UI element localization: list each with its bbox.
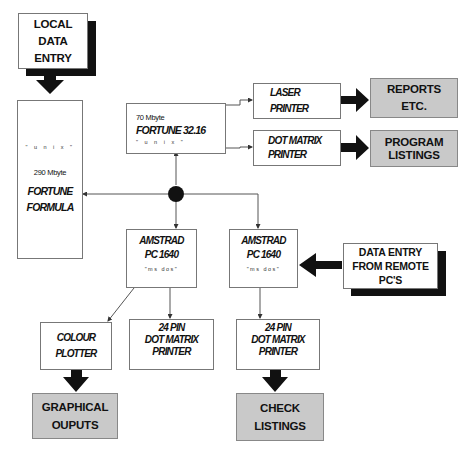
- program-listings-line2: LISTINGS: [388, 149, 439, 162]
- pin24-2-line3: PRINTER: [259, 346, 297, 358]
- colour-plotter-box: COLOUR PLOTTER: [40, 322, 112, 370]
- amstrad-pc1640-1-box: AMSTRAD PC 1640 "ms dos": [126, 229, 197, 288]
- local-data-entry-box: LOCAL DATA ENTRY: [18, 13, 88, 69]
- reports-line2: ETC.: [401, 98, 426, 115]
- 24pin-printer-2-box: 24 PIN DOT MATRIX PRINTER: [236, 319, 320, 370]
- amstrad2-line2: PC 1640: [247, 248, 280, 262]
- fortune-3216-name: FORTUNE 32.16: [136, 122, 205, 139]
- graphical-outputs-box: GRAPHICAL OUPUTS: [32, 393, 118, 439]
- fortune-3216-size: 70 Mbyte: [136, 113, 164, 122]
- amstrad1-line2: PC 1640: [145, 248, 178, 262]
- colour-plotter-line1: COLOUR: [57, 330, 96, 346]
- laser-printer-line2: PRINTER: [270, 101, 308, 117]
- check-listings-line1: CHECK: [260, 399, 300, 417]
- fortune-3216-box: 70 Mbyte FORTUNE 32.16 " u n i x ": [126, 103, 226, 154]
- graphical-line2: OUPUTS: [52, 416, 99, 434]
- amstrad-pc1640-2-box: AMSTRAD PC 1640 "ms dos": [229, 229, 298, 288]
- dot-matrix-line1: DOT MATRIX: [268, 134, 321, 148]
- fortune-formula-box: " u n i x " 290 Mbyte FORTUNE FORMULA: [17, 100, 83, 259]
- amstrad2-line1: AMSTRAD: [241, 234, 285, 248]
- laser-printer-box: LASER PRINTER: [253, 83, 341, 119]
- pin24-1-line1: 24 PIN: [159, 322, 185, 334]
- program-listings-line1: PROGRAM: [385, 136, 444, 149]
- fortune-formula-size: 290 Mbyte: [34, 168, 66, 177]
- local-entry-line2: DATA: [38, 33, 67, 50]
- hub-node: [168, 186, 184, 202]
- dot-matrix-printer-box: DOT MATRIX PRINTER: [253, 130, 341, 166]
- remote-entry-line2: FROM REMOTE: [352, 259, 429, 273]
- check-listings-box: CHECK LISTINGS: [236, 393, 324, 441]
- check-listings-line2: LISTINGS: [254, 417, 305, 435]
- remote-entry-line1: DATA ENTRY: [359, 245, 422, 259]
- pin24-1-line2: DOT MATRIX: [145, 334, 198, 346]
- reports-line1: REPORTS: [387, 81, 441, 98]
- fortune-formula-name1: FORTUNE: [28, 183, 73, 199]
- fortune-formula-name2: FORMULA: [27, 199, 74, 215]
- dot-matrix-line2: PRINTER: [268, 148, 306, 162]
- local-entry-line3: ENTRY: [34, 50, 72, 67]
- graphical-line1: GRAPHICAL: [42, 398, 109, 416]
- laser-printer-line1: LASER: [270, 85, 300, 101]
- local-entry-line1: LOCAL: [34, 16, 73, 33]
- fortune-formula-os: " u n i x ": [25, 144, 74, 150]
- 24pin-printer-1-box: 24 PIN DOT MATRIX PRINTER: [129, 319, 214, 370]
- pin24-2-line2: DOT MATRIX: [251, 334, 304, 346]
- remote-entry-line3: PC'S: [379, 273, 402, 287]
- pin24-1-line3: PRINTER: [152, 346, 190, 358]
- amstrad1-os: "ms dos": [145, 266, 179, 272]
- colour-plotter-line2: PLOTTER: [55, 346, 96, 362]
- remote-data-entry-box: DATA ENTRY FROM REMOTE PC'S: [343, 243, 438, 289]
- pin24-2-line1: 24 PIN: [265, 322, 291, 334]
- fortune-3216-os: " u n i x ": [136, 139, 185, 145]
- reports-output-box: REPORTS ETC.: [370, 78, 458, 118]
- program-listings-box: PROGRAM LISTINGS: [370, 130, 458, 167]
- amstrad1-line1: AMSTRAD: [139, 234, 183, 248]
- amstrad2-os: "ms dos": [247, 266, 281, 272]
